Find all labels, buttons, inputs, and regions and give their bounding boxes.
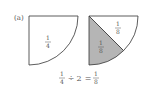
- svg-text:=: =: [85, 74, 92, 83]
- svg-text:8: 8: [99, 47, 103, 54]
- svg-text:4: 4: [60, 78, 64, 85]
- svg-text:8: 8: [116, 28, 120, 35]
- svg-text:÷: ÷: [68, 74, 75, 83]
- svg-text:4: 4: [46, 42, 50, 49]
- svg-text:1: 1: [60, 70, 64, 77]
- svg-text:2: 2: [76, 74, 81, 83]
- svg-text:1: 1: [116, 20, 120, 27]
- svg-text:1: 1: [99, 39, 103, 46]
- svg-text:8: 8: [94, 78, 98, 85]
- svg-text:1: 1: [94, 70, 98, 77]
- svg-text:1: 1: [46, 34, 50, 41]
- left-quarter-sector: [29, 16, 78, 65]
- part-label: (a): [14, 14, 24, 22]
- equation: 1 4 ÷ 2 = 1 8: [59, 70, 99, 85]
- fraction-diagram: (a) 1 4 1 8 1 8 1 4 ÷ 2 = 1 8: [0, 0, 148, 90]
